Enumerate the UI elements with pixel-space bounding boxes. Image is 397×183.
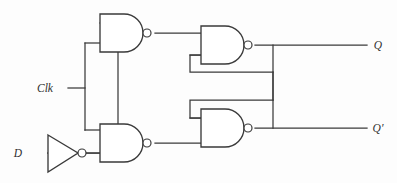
nand-gate-top-right[interactable]: [201, 26, 252, 64]
nand-gate-top-left[interactable]: [100, 14, 151, 52]
circuit-schematic-svg: Clk D Q Q′: [0, 0, 397, 183]
nand-gate-bottom-left[interactable]: [100, 124, 151, 162]
inverter-triangle: [48, 135, 78, 172]
q-output-label: Q: [374, 39, 383, 51]
circuit-diagram-canvas: Clk D Q Q′: [0, 0, 397, 183]
nand-inversion-bubble: [244, 41, 252, 49]
inverter-gate-d[interactable]: [48, 135, 86, 172]
qnot-output-label: Q′: [373, 122, 384, 134]
nand-body: [201, 26, 244, 64]
nand-gate-bottom-right[interactable]: [201, 109, 252, 147]
nand-inversion-bubble: [244, 124, 252, 132]
nand-body: [100, 124, 143, 162]
nand-body: [201, 109, 244, 147]
clk-input-label: Clk: [37, 82, 54, 94]
nand-inversion-bubble: [143, 29, 151, 37]
inverter-inversion-bubble: [78, 149, 86, 157]
nand-inversion-bubble: [143, 139, 151, 147]
d-input-label: D: [13, 147, 23, 159]
nand-body: [100, 14, 143, 52]
